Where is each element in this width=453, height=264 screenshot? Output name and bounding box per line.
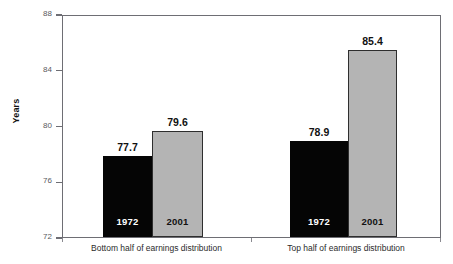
bar-value-label: 78.9 (309, 126, 329, 138)
bar-group1-1972[interactable]: 78.9 1972 (290, 141, 348, 237)
bar-value-label: 85.4 (362, 35, 382, 47)
x-tick-mark-mid (251, 238, 252, 242)
bar-series-label: 1972 (104, 216, 151, 227)
y-tick-label: 72 (43, 232, 52, 241)
x-category-label-bottom-half: Bottom half of earnings distribution (62, 243, 251, 253)
bar-value-label: 79.6 (167, 116, 187, 128)
x-tick-mark-left (62, 238, 63, 242)
y-tick-label: 84 (43, 65, 52, 74)
y-tick-label: 80 (43, 121, 52, 130)
bar-group0-1972[interactable]: 77.7 1972 (103, 156, 152, 237)
y-axis-title: Years (11, 81, 21, 141)
y-tick-label: 76 (43, 176, 52, 185)
bar-series-label: 2001 (349, 216, 396, 227)
x-tick-mark-right (440, 238, 441, 242)
bar-chart: Years 88 84 80 76 72 77.7 1972 79.6 (0, 0, 453, 264)
bar-value-label: 77.7 (117, 141, 137, 153)
x-category-label-top-half: Top half of earnings distribution (251, 243, 441, 253)
bar-series-label: 1972 (291, 216, 347, 227)
bar-series-label: 2001 (153, 216, 202, 227)
y-tick-label: 88 (43, 9, 52, 18)
bar-group1-2001[interactable]: 85.4 2001 (348, 50, 397, 237)
plot-area: 77.7 1972 79.6 2001 78.9 1972 85.4 2001 (62, 15, 441, 238)
bar-group0-2001[interactable]: 79.6 2001 (152, 131, 203, 237)
